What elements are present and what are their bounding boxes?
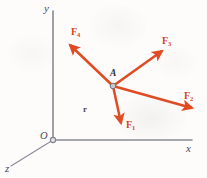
point-a-label: A (110, 69, 116, 79)
force-vector-f2-line (113, 86, 192, 108)
force-label-f2: F2 (184, 91, 193, 101)
force-vector-f3-line (113, 51, 162, 86)
x-axis-label: x (186, 143, 191, 154)
force-label-f4: F4 (71, 27, 80, 37)
force-vector-f4-line (70, 45, 113, 86)
force-vector-diagram: y x z O A r F1 F2 F3 F4 (0, 0, 207, 178)
diagram-canvas (0, 0, 207, 178)
origin-point (50, 137, 55, 142)
force-label-f4-subscript: 4 (77, 31, 80, 38)
force-label-f3: F3 (162, 36, 171, 46)
force-label-f1: F1 (126, 120, 135, 130)
z-axis-line (11, 140, 53, 166)
point-a-marker (110, 83, 116, 89)
force-label-f3-subscript: 3 (168, 40, 171, 47)
z-axis-label: z (5, 163, 9, 174)
force-vectors-group (70, 45, 192, 123)
origin-label: O (40, 131, 48, 142)
position-vector-label: r (83, 105, 87, 114)
force-vector-f1-line (113, 86, 121, 123)
force-label-f2-subscript: 2 (190, 95, 193, 102)
force-label-f1-subscript: 1 (132, 124, 135, 131)
y-axis-label: y (44, 3, 49, 14)
